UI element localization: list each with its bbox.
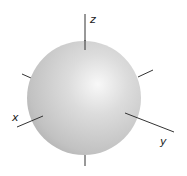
neg-y-axis [22,74,31,78]
x-axis-label: x [11,111,19,124]
z-axis-label: z [89,13,96,26]
sphere [27,41,141,155]
y-axis-label: y [159,135,167,148]
sphere-diagram: z x y [0,0,187,176]
neg-x-axis [138,70,153,77]
